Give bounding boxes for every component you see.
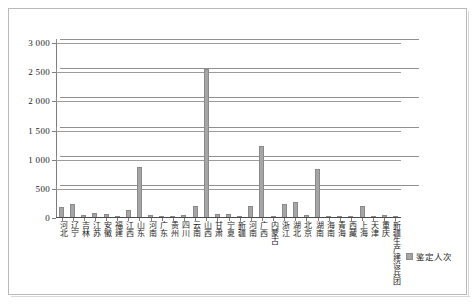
bar [326, 216, 331, 217]
y-axis-tick [52, 72, 56, 73]
chart-legend: 鉴定人次 [406, 250, 452, 262]
x-axis-tick-label: 安徽 [102, 221, 110, 237]
bar [259, 146, 264, 217]
gridline-connector [56, 127, 57, 132]
gridline [56, 131, 401, 132]
y-axis-tick [52, 101, 56, 102]
x-axis-tick-label: 福建 [113, 221, 121, 237]
x-axis-tick-label: 上海 [358, 221, 366, 237]
x-axis-tick-label: 甘肃 [213, 221, 221, 237]
bar [271, 216, 276, 217]
x-axis-tick-label: 贵州 [169, 221, 177, 237]
bar [115, 216, 120, 217]
y-axis-tick [52, 131, 56, 132]
bar [170, 216, 175, 217]
legend-label: 鉴定人次 [416, 250, 452, 262]
y-axis-labels: 3 0002 5002 0001 5001 0005000 [4, 0, 50, 308]
x-axis-tick-label: 云南 [191, 221, 199, 237]
x-axis-tick-label: 辽宁 [69, 221, 77, 237]
bar [204, 69, 209, 217]
y-axis-tick [52, 189, 56, 190]
bar [70, 204, 75, 217]
gridline-connector [56, 68, 57, 73]
plot-area [56, 43, 401, 218]
bar [348, 216, 353, 217]
bar [282, 204, 287, 217]
x-axis-tick-label: 青海 [336, 221, 344, 237]
bar [126, 210, 131, 217]
x-axis-tick-label: 天津 [369, 221, 377, 237]
bar [193, 206, 198, 217]
y-axis-tick [52, 218, 56, 219]
y-axis-tick-label: 2 000 [6, 97, 50, 106]
gridline [56, 189, 401, 190]
x-axis-tick-label: 河南 [147, 221, 155, 237]
y-axis-tick-label: 2 500 [6, 68, 50, 77]
gridline-connector [56, 185, 57, 190]
x-axis-tick-label: 浙江 [280, 221, 288, 237]
bar [304, 215, 309, 217]
legend-swatch-icon [406, 253, 413, 260]
gridline-back-edge [60, 39, 419, 40]
y-axis-tick-label: 500 [6, 185, 50, 194]
bar [293, 202, 298, 217]
gridline-back-edge [60, 97, 419, 98]
y-axis-tick-label: 1 000 [6, 156, 50, 165]
gridline-connector [56, 39, 57, 44]
bar [59, 207, 64, 217]
x-axis-tick-label: 广西 [258, 221, 266, 237]
gridline-connector [56, 156, 57, 161]
gridline-connector [56, 97, 57, 102]
figure-shadow-right [468, 11, 469, 297]
bar [315, 169, 320, 217]
x-axis-tick-label: 河南 [247, 221, 255, 237]
bar [148, 215, 153, 217]
x-axis-tick-label: 江西 [124, 221, 132, 237]
x-axis-tick-label: 山东 [135, 221, 143, 237]
x-axis-tick-label: 山西 [202, 221, 210, 237]
x-axis-tick-label: 新疆 [236, 221, 244, 237]
bar [382, 215, 387, 217]
gridline-back-edge [60, 185, 419, 186]
gridline [56, 72, 401, 73]
bar [159, 216, 164, 217]
y-axis-tick-label: 0 [6, 214, 50, 223]
x-axis-tick-label: 广东 [158, 221, 166, 237]
gridline-back-edge [60, 127, 419, 128]
x-axis-labels: 河北辽宁吉林江苏安徽福建江西山东河南广东贵州四川云南山西甘肃宁夏新疆河南广西内蒙… [56, 221, 401, 301]
bar [104, 214, 109, 217]
x-axis-tick-label: 重庆 [380, 221, 388, 237]
bar [215, 214, 220, 217]
bar [360, 206, 365, 217]
x-axis-tick-label: 宁夏 [225, 221, 233, 237]
bar [337, 216, 342, 217]
y-axis-tick-label: 1 500 [6, 127, 50, 136]
x-axis-tick-label: 内蒙古 [269, 221, 277, 245]
bar [393, 216, 398, 217]
bar [81, 215, 86, 217]
gridline [56, 43, 401, 44]
y-axis-tick-label: 3 000 [6, 39, 50, 48]
x-axis-tick-label: 湖北 [291, 221, 299, 237]
x-axis-tick-label: 湖南 [314, 221, 322, 237]
gridline-back-edge [60, 68, 419, 69]
x-axis-tick-label: 四川 [180, 221, 188, 237]
bar [137, 167, 142, 217]
gridline [56, 160, 401, 161]
bar [181, 215, 186, 217]
x-axis-tick-label: 吉林 [80, 221, 88, 237]
bar [226, 214, 231, 217]
y-axis-tick [52, 43, 56, 44]
bar [92, 213, 97, 217]
x-axis-tick-label: 北京 [302, 221, 310, 237]
x-axis-tick-label: 海南 [325, 221, 333, 237]
bar [371, 216, 376, 217]
x-axis-tick-label: 河北 [58, 221, 66, 237]
y-axis-tick [52, 160, 56, 161]
gridline [56, 101, 401, 102]
x-axis-tick-label: 新疆生产建设兵团 [391, 221, 399, 285]
bar [248, 206, 253, 217]
bar [237, 216, 242, 217]
x-axis-tick-label: 西藏 [347, 221, 355, 237]
x-axis-tick-label: 江苏 [91, 221, 99, 237]
